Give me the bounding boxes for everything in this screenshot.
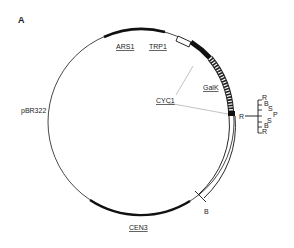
polylinker-site: R [262,128,267,135]
insert-line-inner [199,116,229,194]
cyc1-promoter-block [191,42,210,58]
galk-label: GalK [203,84,219,91]
site-r-label: R [239,113,244,120]
site-b-label: B [204,208,209,215]
panel-label: A [18,15,25,25]
ars1-region [104,29,165,37]
cyc1-pointer-down [168,103,228,114]
polylinker-site: P [273,111,278,118]
trp1-label: TRP1 [149,43,167,50]
r-site-block [228,111,235,116]
cyc1-pointer-up [176,66,193,95]
polylinker: R B S P S B R [258,94,278,135]
ars1-label: ARS1 [116,43,134,50]
cen3-label: CEN3 [129,224,148,231]
cyc1-label: CYC1 [156,97,175,104]
trp1-box [176,36,191,47]
pbr322-label: pBR322 [21,107,46,115]
plasmid-map: A B R R B S P S B R ARS1 TRP1 [0,0,294,248]
cen3-region [90,200,190,215]
